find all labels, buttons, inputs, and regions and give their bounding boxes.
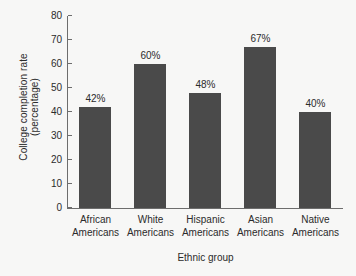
y-axis-tick-label: 40: [51, 106, 62, 117]
y-axis-title-line1: College completion rate: [18, 53, 30, 160]
plot-area: 01020304050607080 42%60%48%67%40%: [67, 16, 343, 209]
bar-series: 42%60%48%67%40%: [68, 16, 343, 208]
x-axis-tick-label-line1: African: [68, 213, 123, 226]
x-axis-tick-label-line1: White: [123, 213, 178, 226]
x-axis-tick-label: WhiteAmericans: [123, 213, 178, 239]
x-axis-tick-label-line2: Americans: [233, 226, 288, 239]
y-axis-tick-label: 80: [51, 10, 62, 21]
bar-value-label: 42%: [68, 93, 123, 104]
y-axis-tick-label: 20: [51, 154, 62, 165]
bar[interactable]: [244, 47, 276, 208]
y-axis-title: College completion rate (percentage): [14, 0, 44, 214]
y-axis-tick-label: 0: [56, 202, 62, 213]
x-axis-line: [67, 208, 343, 209]
bar-value-label: 40%: [288, 98, 343, 109]
x-axis-tick-label: HispanicAmericans: [178, 213, 233, 239]
x-axis-tick-label-line1: Native: [288, 213, 343, 226]
bar[interactable]: [299, 112, 331, 208]
bar-slot: 40%: [288, 16, 343, 208]
bar-slot: 48%: [178, 16, 233, 208]
x-axis-tick-labels: AfricanAmericansWhiteAmericansHispanicAm…: [68, 213, 343, 245]
y-axis-tick-label: 50: [51, 82, 62, 93]
x-axis-tick-label-line2: Americans: [178, 226, 233, 239]
y-axis-tick-label: 60: [51, 58, 62, 69]
x-axis-tick-label: NativeAmericans: [288, 213, 343, 239]
x-axis-tick-label-line2: Americans: [68, 226, 123, 239]
x-axis-tick-label-line1: Hispanic: [178, 213, 233, 226]
bar-slot: 60%: [123, 16, 178, 208]
x-axis-tick-label: AsianAmericans: [233, 213, 288, 239]
x-axis-tick-label: AfricanAmericans: [68, 213, 123, 239]
bar-value-label: 67%: [233, 33, 288, 44]
bar-value-label: 60%: [123, 50, 178, 61]
bar-slot: 67%: [233, 16, 288, 208]
bar-value-label: 48%: [178, 79, 233, 90]
y-axis-tick-label: 70: [51, 34, 62, 45]
bar-slot: 42%: [68, 16, 123, 208]
x-axis-title: Ethnic group: [68, 252, 343, 263]
x-axis-tick-label-line1: Asian: [233, 213, 288, 226]
bar-chart: College completion rate (percentage) 010…: [0, 0, 356, 276]
bar[interactable]: [189, 93, 221, 208]
bar[interactable]: [79, 107, 111, 208]
x-axis-tick-label-line2: Americans: [288, 226, 343, 239]
y-axis-title-line2: (percentage): [29, 78, 41, 136]
y-axis-tick-label: 10: [51, 178, 62, 189]
bar[interactable]: [134, 64, 166, 208]
y-axis-tick-label: 30: [51, 130, 62, 141]
x-axis-tick-label-line2: Americans: [123, 226, 178, 239]
